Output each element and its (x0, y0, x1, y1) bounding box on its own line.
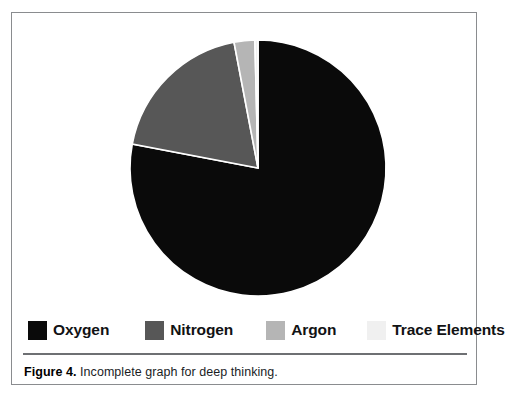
pie-chart-area (12, 13, 478, 308)
legend-item-oxygen[interactable]: Oxygen (28, 321, 109, 340)
chart-legend: Oxygen Nitrogen Argon Trace Elements (12, 307, 478, 353)
legend-label-trace-elements: Trace Elements (392, 322, 504, 338)
caption-divider (23, 353, 467, 355)
legend-label-nitrogen: Nitrogen (170, 322, 233, 338)
legend-item-argon[interactable]: Argon (266, 321, 336, 340)
figure-caption-block: Figure 4. Incomplete graph for deep thin… (12, 353, 478, 385)
pie-chart-svg (12, 13, 478, 308)
figure-caption-body: Incomplete graph for deep thinking. (80, 365, 278, 379)
figure-container: Oxygen Nitrogen Argon Trace Elements Fig… (11, 12, 477, 385)
legend-swatch-icon (145, 321, 164, 340)
legend-label-oxygen: Oxygen (53, 322, 109, 338)
legend-item-trace-elements[interactable]: Trace Elements (367, 321, 504, 340)
figure-caption-label: Figure 4. (24, 365, 77, 379)
figure-caption: Figure 4. Incomplete graph for deep thin… (24, 365, 278, 380)
legend-swatch-icon (266, 321, 285, 340)
legend-swatch-icon (367, 321, 386, 340)
pie-slice-group (130, 40, 386, 296)
legend-label-argon: Argon (291, 322, 336, 338)
legend-swatch-icon (28, 321, 47, 340)
legend-item-nitrogen[interactable]: Nitrogen (145, 321, 233, 340)
